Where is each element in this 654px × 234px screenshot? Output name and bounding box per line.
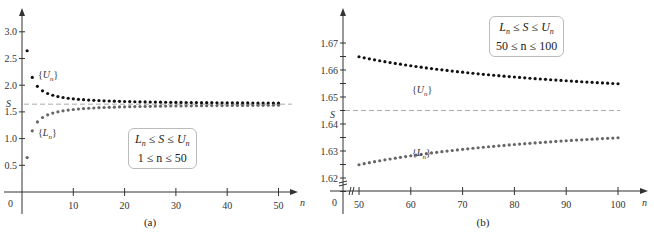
data-point [220, 104, 223, 107]
data-point [420, 66, 423, 69]
data-point [368, 57, 371, 60]
data-point [190, 101, 193, 104]
x-tick-label: 50 [354, 199, 364, 210]
data-point [523, 76, 526, 79]
data-point [466, 147, 469, 150]
data-point [72, 97, 75, 100]
y-tick-label: 2.5 [5, 53, 18, 64]
x-tick-label: 70 [458, 199, 468, 210]
series-label-u: {Un} [412, 84, 432, 98]
data-point [144, 105, 147, 108]
data-point [113, 106, 116, 109]
data-point [118, 100, 121, 103]
data-point [46, 92, 49, 95]
data-point [388, 61, 391, 64]
data-point [61, 96, 64, 99]
data-point [471, 72, 474, 75]
data-point [159, 105, 162, 108]
data-point [482, 73, 485, 76]
data-point [67, 97, 70, 100]
data-point [36, 120, 39, 123]
data-point [601, 137, 604, 140]
data-point [77, 107, 80, 110]
series-label-l: {Ln} [38, 127, 57, 141]
data-point [497, 144, 500, 147]
data-point [46, 113, 49, 116]
data-point [56, 110, 59, 113]
data-point [539, 141, 542, 144]
data-point [596, 81, 599, 84]
data-point [368, 161, 371, 164]
data-point [97, 99, 100, 102]
data-point [220, 101, 223, 104]
data-point [77, 98, 80, 101]
y-tick-label: 2.0 [5, 80, 18, 91]
data-point [97, 106, 100, 109]
data-point [570, 139, 573, 142]
data-point [174, 104, 177, 107]
data-point [185, 104, 188, 107]
data-point [394, 62, 397, 65]
annotation-box-b: Ln ≤ S ≤ Un 50 ≤ n ≤ 100 [489, 16, 564, 57]
data-point [554, 78, 557, 81]
data-point [611, 82, 614, 85]
data-point [241, 104, 244, 107]
data-point [399, 156, 402, 159]
data-point [378, 59, 381, 62]
y-tick-label: 1.63 [321, 146, 339, 157]
data-point [61, 109, 64, 112]
data-point [404, 155, 407, 158]
data-point [215, 101, 218, 104]
data-point [138, 100, 141, 103]
y-tick-label: 0.5 [5, 160, 18, 171]
data-point [190, 104, 193, 107]
data-point [487, 145, 490, 148]
data-point [51, 94, 54, 97]
data-point [200, 101, 203, 104]
data-point [591, 81, 594, 84]
x-tick-label: 20 [120, 200, 130, 211]
data-point [513, 143, 516, 146]
data-point [528, 142, 531, 145]
origin-label: 0 [8, 198, 13, 209]
range-line-a: 1 ≤ n ≤ 50 [135, 151, 190, 165]
y-tick-label: 1.64 [321, 119, 339, 130]
data-point [226, 104, 229, 107]
data-point [123, 100, 126, 103]
panel-caption: (b) [477, 216, 490, 229]
y-axis-arrow-icon [19, 8, 25, 16]
data-point [580, 138, 583, 141]
data-point [82, 107, 85, 110]
data-point [565, 139, 568, 142]
data-point [118, 105, 121, 108]
data-point [508, 75, 511, 78]
data-point [502, 75, 505, 78]
data-point [518, 76, 521, 79]
series-label-l: {Ln} [412, 147, 431, 161]
data-point [388, 157, 391, 160]
data-point [513, 75, 516, 78]
data-point [518, 143, 521, 146]
x-axis-arrow-icon [640, 188, 648, 194]
x-tick-label: 90 [561, 199, 571, 210]
data-point [185, 101, 188, 104]
data-point [616, 82, 619, 85]
data-point [461, 148, 464, 151]
data-point [523, 142, 526, 145]
data-point [616, 136, 619, 139]
data-point [399, 63, 402, 66]
data-point [72, 108, 75, 111]
y-tick-label: 1.65 [321, 92, 339, 103]
data-point [492, 74, 495, 77]
data-point [430, 67, 433, 70]
annotation-box-a: Ln ≤ S ≤ Un 1 ≤ n ≤ 50 [128, 128, 197, 169]
data-point [378, 159, 381, 162]
data-point [554, 140, 557, 143]
data-point [31, 129, 34, 132]
x-tick-label: 50 [274, 200, 284, 211]
data-point [477, 72, 480, 75]
x-tick-label: 80 [509, 199, 519, 210]
data-point [414, 65, 417, 68]
data-point [425, 66, 428, 69]
x-axis-label: n [300, 197, 305, 208]
